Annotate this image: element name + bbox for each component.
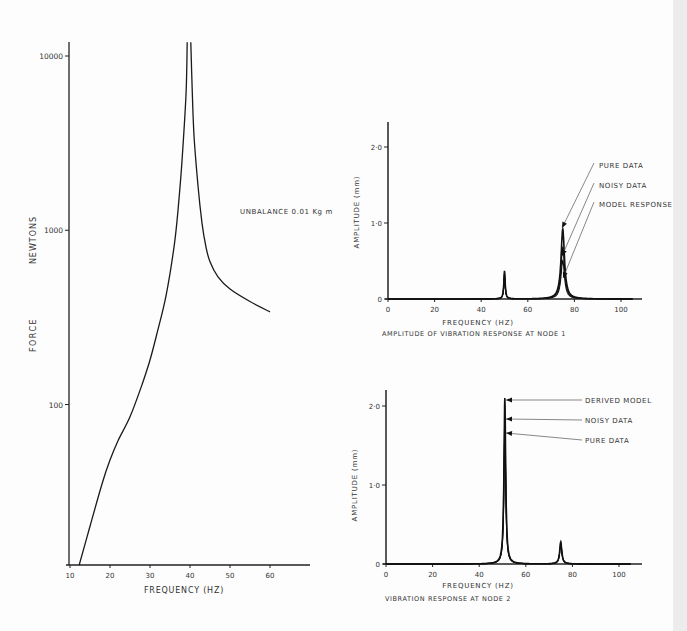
x-tick-label: 20 (106, 572, 115, 580)
node2-legend: DERIVED MODELNOISY DATAPURE DATA (506, 397, 652, 445)
force-series (79, 42, 270, 565)
x-tick-label: 100 (612, 571, 625, 579)
node2-xlabel: FREQUENCY (HZ) (442, 582, 514, 590)
legend-label: NOISY DATA (585, 417, 633, 425)
node2-x-ticks: 020406080100 (384, 564, 626, 579)
y-tick-label: 1·0 (369, 482, 380, 490)
series-pure-data (388, 229, 633, 299)
x-tick-label: 60 (521, 571, 530, 579)
node1-ylabel: AMPLITUDE (mm) (353, 176, 361, 249)
series-noisy-data (388, 247, 633, 299)
arrow-head-icon (506, 417, 512, 422)
force-ylabel-force: FORCE (29, 318, 38, 352)
x-tick-label: 0 (384, 571, 388, 579)
x-tick-label: 20 (430, 306, 439, 314)
x-tick-label: 40 (477, 306, 486, 314)
legend-label: NOISY DATA (599, 182, 647, 190)
x-tick-label: 80 (568, 571, 577, 579)
x-tick-label: 20 (428, 571, 437, 579)
node1-xlabel: FREQUENCY (HZ) (442, 319, 514, 327)
y-tick-label: 1000 (44, 226, 63, 235)
force-x-ticks: 102030405060 (66, 565, 275, 580)
leader-line (506, 419, 582, 420)
y-tick-label: 0 (376, 561, 380, 569)
leader-line (563, 202, 594, 278)
force-y-ticks: 100100010000 (39, 52, 69, 410)
y-tick-label: 1·0 (371, 220, 382, 228)
node1-x-ticks: 020406080100 (386, 299, 628, 314)
x-tick-label: 60 (266, 572, 275, 580)
x-tick-label: 10 (66, 572, 75, 580)
legend-label: MODEL RESPONSE (599, 201, 672, 209)
unbalance-annotation: UNBALANCE 0.01 Kg m (240, 208, 333, 216)
y-tick-label: 2·0 (369, 403, 380, 411)
node1-series (388, 229, 633, 299)
node2-y-ticks: 01·02·0 (369, 403, 386, 569)
y-tick-label: 0 (378, 296, 382, 304)
legend-label: PURE DATA (599, 162, 643, 170)
x-tick-label: 40 (475, 571, 484, 579)
node2-title: VIBRATION RESPONSE AT NODE 2 (385, 595, 511, 603)
force-curve-0 (79, 42, 187, 565)
leader-line (562, 183, 594, 256)
force-curve-1 (191, 42, 270, 312)
y-tick-label: 10000 (39, 52, 63, 61)
legend-label: DERIVED MODEL (585, 397, 652, 405)
y-tick-label: 100 (49, 401, 64, 410)
leader-line (506, 433, 582, 440)
figure-canvas: 100100010000 102030405060 FORCE NEWTONS … (0, 0, 687, 631)
node2-chart: 01·02·0 020406080100 DERIVED MODELNOISY … (351, 390, 652, 603)
node1-y-ticks: 01·02·0 (371, 144, 388, 304)
force-chart: 100100010000 102030405060 FORCE NEWTONS … (29, 42, 333, 595)
scan-edge (673, 0, 687, 631)
x-tick-label: 30 (146, 572, 155, 580)
node2-ylabel: AMPLITUDE (mm) (351, 449, 359, 522)
x-tick-label: 40 (186, 572, 195, 580)
x-tick-label: 0 (386, 306, 390, 314)
legend-label: PURE DATA (585, 437, 629, 445)
force-ylabel-newtons: NEWTONS (29, 216, 38, 264)
leader-line (562, 163, 594, 228)
arrow-head-icon (506, 431, 512, 436)
y-tick-label: 2·0 (371, 144, 382, 152)
x-tick-label: 100 (614, 306, 627, 314)
node1-title: AMPLITUDE OF VIBRATION RESPONSE AT NODE … (382, 330, 566, 338)
x-tick-label: 80 (570, 306, 579, 314)
force-xlabel: FREQUENCY (HZ) (144, 586, 224, 595)
node1-chart: 01·02·0 020406080100 PURE DATANOISY DATA… (353, 122, 672, 338)
series-model-response (388, 261, 633, 300)
node1-legend: PURE DATANOISY DATAMODEL RESPONSE (562, 162, 672, 278)
x-tick-label: 50 (226, 572, 235, 580)
arrow-head-icon (506, 398, 512, 403)
x-tick-label: 60 (523, 306, 532, 314)
